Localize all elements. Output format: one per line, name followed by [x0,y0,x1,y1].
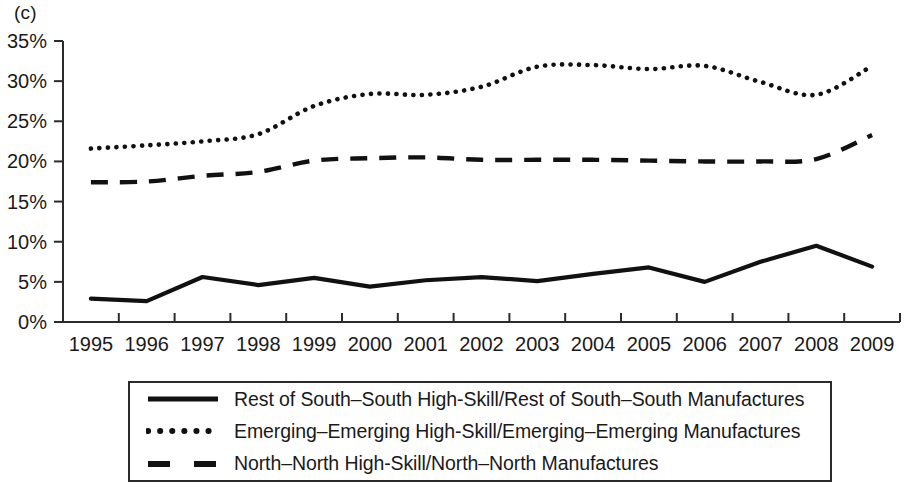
dashed-line-icon [146,455,220,473]
x-axis-tick-labels: 1995199619971998199920002001200220032004… [69,333,895,355]
dotted-line-icon [146,422,220,440]
chart-plot-area: 0%5%10%15%20%25%30%35% 19951996199719981… [0,0,910,375]
x-axis-tick-label: 2005 [627,333,672,355]
y-axis-tick-label: 5% [18,271,47,293]
series-line-solid [91,246,872,301]
data-series-group [91,64,872,301]
x-axis-tick-label: 2002 [459,333,504,355]
x-axis-tick-label: 2009 [850,333,895,355]
y-axis-tick-label: 30% [7,70,47,92]
legend-item[interactable]: Emerging–Emerging High-Skill/Emerging–Em… [130,415,830,447]
solid-line-icon [146,390,220,408]
chart-legend: Rest of South–South High-Skill/Rest of S… [128,381,832,482]
axis-lines [54,41,900,322]
y-axis-tick-label: 35% [7,30,47,52]
legend-item-label: Emerging–Emerging High-Skill/Emerging–Em… [234,420,800,443]
legend-item[interactable]: Rest of South–South High-Skill/Rest of S… [130,383,830,415]
x-axis-tick-label: 1996 [124,333,169,355]
x-axis-tick-label: 1995 [69,333,114,355]
legend-item[interactable]: North–North High-Skill/North–North Manuf… [130,448,830,480]
y-axis-tick-labels: 0%5%10%15%20%25%30%35% [7,30,47,333]
series-line-dotted [91,64,872,148]
y-axis-tick-label: 25% [7,110,47,132]
x-axis-tick-label: 2006 [682,333,727,355]
legend-item-label: Rest of South–South High-Skill/Rest of S… [234,388,804,411]
x-axis-tick-label: 1997 [180,333,225,355]
x-axis-tick-label: 1999 [292,333,337,355]
y-axis-tick-label: 10% [7,231,47,253]
x-axis-tick-label: 2003 [515,333,560,355]
x-axis-tick-label: 1998 [236,333,281,355]
x-axis-tick-label: 2000 [348,333,393,355]
x-axis-tick-label: 2008 [794,333,839,355]
y-axis-tick-label: 20% [7,150,47,172]
x-axis-tick-label: 2001 [403,333,448,355]
figure-panel-c: (c) 0%5%10%15%20%25%30%35% 1995199619971… [0,0,910,490]
y-axis-tick-label: 0% [18,311,47,333]
x-axis-tick-label: 2007 [738,333,783,355]
x-axis-tick-label: 2004 [571,333,616,355]
legend-item-label: North–North High-Skill/North–North Manuf… [234,452,658,475]
y-axis-tick-label: 15% [7,191,47,213]
